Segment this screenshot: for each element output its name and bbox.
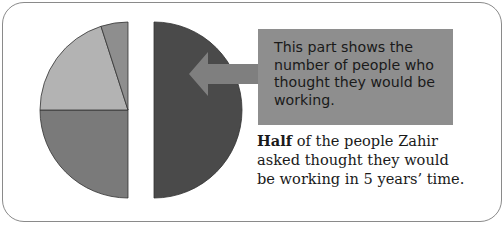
callout-box: This part shows the number of people who…: [258, 29, 453, 125]
pie-slice-working: [154, 22, 242, 198]
caption: Half of the people Zahir asked thought t…: [257, 131, 471, 188]
pie-slice-quarter: [40, 110, 128, 198]
caption-bold: Half: [257, 132, 292, 149]
callout-text: This part shows the number of people who…: [274, 39, 435, 108]
pie-left-group: [40, 22, 128, 198]
